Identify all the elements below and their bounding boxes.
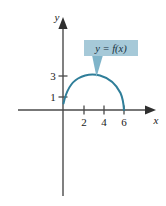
graph-svg: 2 4 6 3 1 x y y = f(x): [0, 0, 166, 206]
y-axis-label: y: [54, 11, 60, 23]
callout-label: y = f(x): [94, 43, 127, 55]
x-axis-label: x: [153, 114, 159, 126]
x-tick-label-6: 6: [121, 116, 127, 128]
y-tick-label-1: 1: [50, 91, 56, 103]
x-tick-label-2: 2: [81, 116, 87, 128]
function-graph-figure: 2 4 6 3 1 x y y = f(x): [0, 0, 166, 206]
y-tick-label-3: 3: [50, 70, 56, 82]
x-tick-label-4: 4: [101, 116, 107, 128]
figure-background: [0, 0, 166, 206]
